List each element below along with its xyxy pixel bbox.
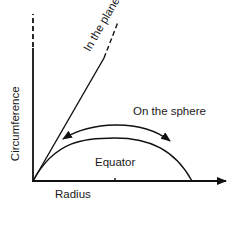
x-axis-label: Radius	[55, 189, 91, 201]
sphere-label: On the sphere	[133, 106, 206, 118]
plane-line	[33, 58, 104, 181]
equator-label: Equator	[95, 157, 135, 169]
y-axis-label: Circumference	[10, 86, 22, 161]
